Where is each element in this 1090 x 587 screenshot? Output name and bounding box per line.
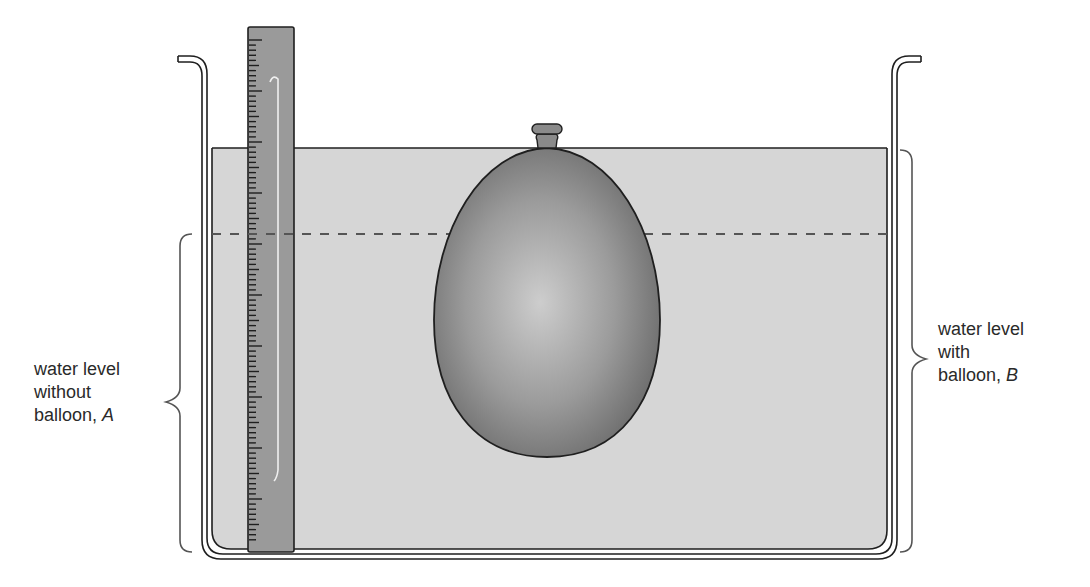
label-b-line2: with [938,341,1024,364]
label-a-line1: water level [34,358,120,381]
label-b-line1: water level [938,318,1024,341]
balloon-knot-cap [532,124,562,134]
label-a-line2: without [34,381,120,404]
label-a-line3: balloon, A [34,404,120,427]
variable-a: A [102,405,114,425]
brace-b [900,150,926,552]
variable-b: B [1006,365,1018,385]
label-water-level-without-balloon: water level without balloon, A [34,358,120,427]
diagram-canvas [0,0,1090,587]
label-a-prefix: balloon, [34,405,102,425]
ruler [248,27,294,552]
diagram: water level without balloon, A water lev… [0,0,1090,587]
label-b-prefix: balloon, [938,365,1006,385]
balloon-knot [536,134,558,148]
label-b-line3: balloon, B [938,364,1024,387]
brace-a [166,234,192,552]
label-water-level-with-balloon: water level with balloon, B [938,318,1024,387]
